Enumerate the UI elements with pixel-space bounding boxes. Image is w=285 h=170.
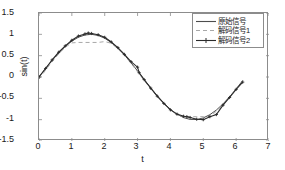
y-tick-label: -1.5 <box>0 135 14 144</box>
y-tick-label: 0 <box>9 71 14 80</box>
legend-swatch-marker-line <box>195 36 217 45</box>
legend-label: 解码信号1 <box>218 26 250 35</box>
legend-label: 解码信号2 <box>218 36 250 45</box>
legend-item-original: 原始信号 <box>195 17 261 26</box>
y-axis-label: sin(t) <box>20 37 29 97</box>
x-tick-label: 0 <box>28 142 48 151</box>
x-tick-label: 1 <box>61 142 81 151</box>
x-tick-label: 2 <box>94 142 114 151</box>
y-tick-label: -1 <box>6 114 14 123</box>
legend-swatch-dashed-line <box>195 26 217 35</box>
y-tick-label: 1 <box>9 29 14 38</box>
x-tick-label: 5 <box>192 142 212 151</box>
legend-label: 原始信号 <box>218 17 246 26</box>
x-axis-label: t <box>0 155 285 164</box>
x-tick-label: 6 <box>225 142 245 151</box>
legend-swatch-solid-line <box>195 17 217 26</box>
y-tick-label: -0.5 <box>0 92 14 101</box>
chart-figure: 1.5 1 0.5 0 -0.5 -1 -1.5 sin(t) 0 1 2 3 … <box>0 0 285 170</box>
legend-item-decoded1: 解码信号1 <box>195 26 261 35</box>
x-tick-label: 4 <box>159 142 179 151</box>
y-tick-label: 0.5 <box>1 50 14 59</box>
legend-item-decoded2: 解码信号2 <box>195 36 261 45</box>
x-tick-label: 3 <box>126 142 146 151</box>
y-tick-label: 1.5 <box>1 8 14 17</box>
legend: 原始信号 解码信号1 解码信号2 <box>192 13 264 48</box>
x-tick-label: 7 <box>258 142 278 151</box>
series-line-decoded1 <box>39 42 243 117</box>
